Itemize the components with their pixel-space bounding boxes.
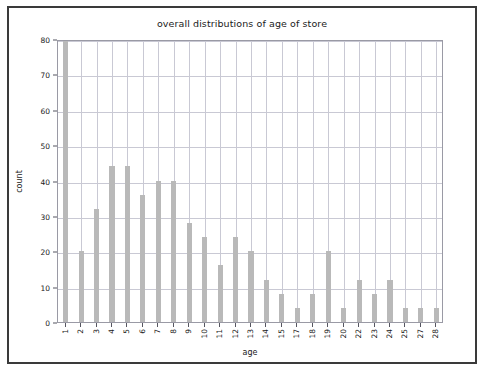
x-tick-label: 28 bbox=[431, 329, 440, 339]
bar bbox=[264, 280, 269, 322]
x-tick-mark bbox=[126, 323, 127, 327]
figure-outer-frame: overall distributions of age of store co… bbox=[7, 6, 477, 364]
bar bbox=[218, 265, 223, 322]
y-tick-label: 40 bbox=[40, 177, 50, 186]
y-tick-label: 80 bbox=[40, 36, 50, 45]
bar bbox=[341, 308, 346, 322]
x-tick-mark bbox=[296, 323, 297, 327]
x-tick-mark bbox=[435, 323, 436, 327]
x-tick-label: 19 bbox=[323, 329, 332, 339]
x-tick-mark bbox=[173, 323, 174, 327]
x-axis-label: age bbox=[57, 348, 443, 357]
x-tick-mark bbox=[65, 323, 66, 327]
bar bbox=[310, 294, 315, 322]
matplotlib-figure: overall distributions of age of store co… bbox=[9, 8, 475, 362]
y-tick-label: 20 bbox=[40, 248, 50, 257]
bar bbox=[171, 181, 176, 323]
x-tick-label: 9 bbox=[184, 329, 193, 334]
x-tick-label: 6 bbox=[137, 329, 146, 334]
bar bbox=[326, 251, 331, 322]
y-tick-label: 0 bbox=[45, 319, 50, 328]
y-axis-ticks: 01020304050607080 bbox=[9, 40, 57, 323]
x-tick-mark bbox=[358, 323, 359, 327]
bar bbox=[372, 294, 377, 322]
x-tick-mark bbox=[188, 323, 189, 327]
bar bbox=[295, 308, 300, 322]
y-tick-label: 60 bbox=[40, 106, 50, 115]
x-tick-label: 27 bbox=[415, 329, 424, 339]
x-tick-label: 8 bbox=[168, 329, 177, 334]
x-tick-mark bbox=[374, 323, 375, 327]
bar bbox=[202, 237, 207, 322]
bar bbox=[140, 195, 145, 322]
x-tick-label: 18 bbox=[307, 329, 316, 339]
x-tick-mark bbox=[204, 323, 205, 327]
x-axis-ticks: 1234567891011121314151718192022232425272… bbox=[57, 323, 443, 351]
x-tick-mark bbox=[235, 323, 236, 327]
x-tick-label: 7 bbox=[153, 329, 162, 334]
x-tick-label: 4 bbox=[107, 329, 116, 334]
x-tick-mark bbox=[265, 323, 266, 327]
x-tick-mark bbox=[250, 323, 251, 327]
y-tick-label: 10 bbox=[40, 283, 50, 292]
x-tick-mark bbox=[80, 323, 81, 327]
bar bbox=[434, 308, 439, 322]
y-tick-label: 70 bbox=[40, 71, 50, 80]
x-tick-label: 20 bbox=[338, 329, 347, 339]
x-tick-label: 5 bbox=[122, 329, 131, 334]
x-tick-label: 12 bbox=[230, 329, 239, 339]
bar bbox=[418, 308, 423, 322]
x-tick-label: 23 bbox=[369, 329, 378, 339]
x-tick-label: 15 bbox=[276, 329, 285, 339]
y-tick-label: 50 bbox=[40, 142, 50, 151]
bar bbox=[156, 181, 161, 323]
x-tick-mark bbox=[343, 323, 344, 327]
x-tick-label: 2 bbox=[76, 329, 85, 334]
x-tick-label: 1 bbox=[60, 329, 69, 334]
bar bbox=[79, 251, 84, 322]
x-tick-mark bbox=[404, 323, 405, 327]
chart-title: overall distributions of age of store bbox=[9, 18, 475, 29]
bar bbox=[357, 280, 362, 322]
x-tick-mark bbox=[157, 323, 158, 327]
bar bbox=[63, 40, 68, 322]
x-tick-mark bbox=[96, 323, 97, 327]
x-tick-label: 11 bbox=[215, 329, 224, 339]
bar bbox=[233, 237, 238, 322]
x-tick-mark bbox=[327, 323, 328, 327]
bar bbox=[387, 280, 392, 322]
x-tick-mark bbox=[281, 323, 282, 327]
bar bbox=[279, 294, 284, 322]
bar bbox=[125, 166, 130, 322]
x-tick-mark bbox=[420, 323, 421, 327]
x-tick-label: 17 bbox=[292, 329, 301, 339]
bar bbox=[248, 251, 253, 322]
x-tick-label: 25 bbox=[400, 329, 409, 339]
x-tick-label: 10 bbox=[199, 329, 208, 339]
x-tick-label: 24 bbox=[384, 329, 393, 339]
x-tick-mark bbox=[389, 323, 390, 327]
bar bbox=[94, 209, 99, 322]
bar bbox=[187, 223, 192, 322]
x-tick-mark bbox=[111, 323, 112, 327]
y-tick-label: 30 bbox=[40, 212, 50, 221]
x-tick-label: 22 bbox=[354, 329, 363, 339]
x-tick-mark bbox=[219, 323, 220, 327]
bar bbox=[109, 166, 114, 322]
x-tick-mark bbox=[312, 323, 313, 327]
x-tick-label: 13 bbox=[246, 329, 255, 339]
x-tick-mark bbox=[142, 323, 143, 327]
x-tick-label: 14 bbox=[261, 329, 270, 339]
x-tick-label: 3 bbox=[91, 329, 100, 334]
bar-series bbox=[58, 41, 442, 322]
bar bbox=[403, 308, 408, 322]
plot-area bbox=[57, 40, 443, 323]
